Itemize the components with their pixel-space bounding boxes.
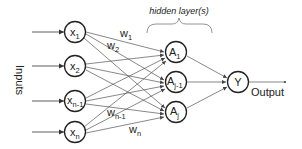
hidden-layer-brace (147, 18, 212, 33)
output-node-y: Y (228, 72, 249, 93)
input-node-xn-1: xn-1 (65, 91, 86, 112)
hidden-node-aj-1: Aj-1 (166, 72, 187, 93)
input-node-x2: x2 (65, 56, 86, 77)
input-node-x1: x1 (65, 22, 86, 43)
weight-w1: w1 (119, 27, 132, 42)
hidden-output-edges (187, 56, 227, 108)
neural-network-diagram: Inputs hidden layer(s) x1 (0, 0, 302, 149)
hidden-layer-annotation: hidden layer(s) (149, 6, 209, 16)
hidden-node-a1: A1 (166, 42, 187, 63)
hidden-node-aj: Aj (166, 102, 187, 123)
weight-wn: wn (128, 123, 141, 138)
input-node-xn: xn (65, 122, 86, 143)
output-label: Output (251, 86, 284, 98)
weight-wn-1: wn-1 (106, 106, 126, 121)
weight-w2: w2 (106, 39, 119, 54)
inputs-label: Inputs (14, 65, 26, 95)
svg-text:Y: Y (234, 76, 242, 88)
input-arrows (32, 32, 64, 132)
